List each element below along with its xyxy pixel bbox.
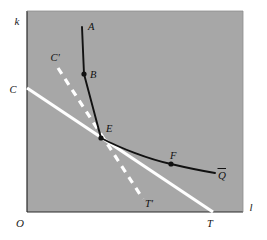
- isoquant-label: Q: [218, 169, 226, 181]
- data-point-b: [81, 71, 86, 76]
- label-point-a: A: [87, 21, 95, 32]
- data-point-f: [168, 161, 173, 166]
- isoquant-figure: k l O C C' T T' A B E F Q: [0, 0, 267, 240]
- figure-page: k l O C C' T T' A B E F Q: [0, 0, 267, 240]
- y-axis-label: k: [15, 15, 21, 27]
- label-point-b: B: [90, 69, 97, 80]
- x-axis-label: l: [249, 201, 252, 213]
- label-point-e: E: [105, 123, 113, 134]
- label-point-f: F: [169, 150, 177, 161]
- label-c: C: [9, 84, 17, 95]
- label-c-prime: C': [50, 52, 60, 63]
- isoquant-label-group: Q: [218, 169, 227, 182]
- label-t: T: [207, 218, 214, 229]
- data-point-e: [98, 135, 103, 140]
- origin-label: O: [16, 217, 24, 229]
- label-t-prime: T': [145, 198, 154, 209]
